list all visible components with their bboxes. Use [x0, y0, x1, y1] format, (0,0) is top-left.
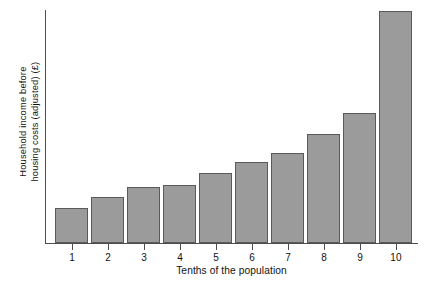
x-axis-tick-1	[72, 244, 73, 250]
x-axis-tick-6	[252, 244, 253, 250]
bar-9	[343, 113, 376, 243]
x-axis-tick-label-1: 1	[57, 252, 87, 263]
bar-2	[91, 197, 124, 243]
x-axis-tick-3	[144, 244, 145, 250]
x-axis-tick-5	[216, 244, 217, 250]
x-axis-tick-label-9: 9	[345, 252, 375, 263]
bar-7	[271, 153, 304, 243]
bar-chart-figure: Household income before housing costs (a…	[0, 0, 439, 291]
bar-8	[307, 134, 340, 243]
bar-1	[55, 208, 88, 243]
y-axis-line	[45, 10, 46, 244]
bar-4	[163, 185, 196, 243]
bar-5	[199, 173, 232, 243]
x-axis-title: Tenths of the population	[45, 265, 418, 276]
x-axis-tick-label-8: 8	[309, 252, 339, 263]
x-axis-tick-7	[288, 244, 289, 250]
x-axis-tick-9	[360, 244, 361, 250]
x-axis-tick-4	[180, 244, 181, 250]
x-axis-tick-label-5: 5	[201, 252, 231, 263]
bar-6	[235, 162, 268, 243]
x-axis-tick-label-3: 3	[129, 252, 159, 263]
plot-area: 12345678910	[0, 0, 439, 291]
x-axis-tick-label-6: 6	[237, 252, 267, 263]
bar-10	[379, 11, 412, 243]
x-axis-tick-label-2: 2	[93, 252, 123, 263]
x-axis-tick-10	[396, 244, 397, 250]
x-axis-line	[45, 243, 418, 244]
bar-3	[127, 187, 160, 243]
x-axis-tick-8	[324, 244, 325, 250]
x-axis-tick-label-4: 4	[165, 252, 195, 263]
x-axis-tick-label-10: 10	[381, 252, 411, 263]
x-axis-tick-label-7: 7	[273, 252, 303, 263]
x-axis-tick-2	[108, 244, 109, 250]
